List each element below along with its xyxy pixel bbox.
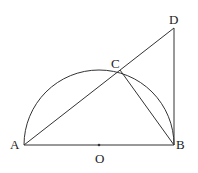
segment-cb <box>120 70 174 145</box>
label-o: O <box>95 151 104 166</box>
label-d: D <box>169 12 178 27</box>
label-a: A <box>10 137 20 152</box>
geometry-diagram: A B O C D <box>0 0 198 173</box>
segment-ad <box>24 28 174 145</box>
label-b: B <box>176 137 185 152</box>
semicircle-arc <box>24 70 174 145</box>
label-c: C <box>111 56 120 71</box>
center-point-o <box>98 144 101 147</box>
